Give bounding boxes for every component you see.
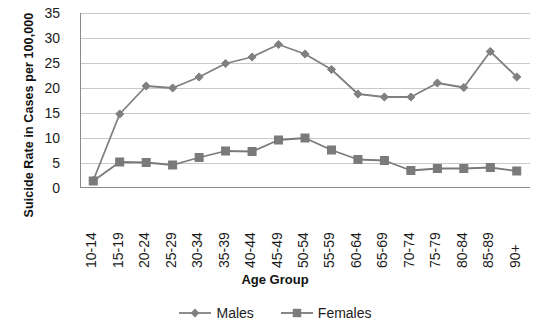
x-tick-label: 85-89 — [480, 198, 496, 268]
x-tick-label: 45-49 — [269, 198, 285, 268]
diamond-marker — [380, 93, 388, 101]
y-tick-label: 30 — [30, 31, 60, 45]
x-tick-label: 30-34 — [189, 198, 205, 268]
x-tick-label: 25-29 — [163, 198, 179, 268]
plot-svg — [80, 13, 530, 188]
x-tick-label: 65-69 — [374, 198, 390, 268]
x-tick-label: 55-59 — [321, 198, 337, 268]
x-tick-label: 35-39 — [216, 198, 232, 268]
series-females — [89, 134, 521, 185]
y-tick-label: 5 — [30, 156, 60, 170]
x-tick-label: 60-64 — [348, 198, 364, 268]
y-tick-label: 15 — [30, 106, 60, 120]
diamond-marker — [433, 79, 441, 87]
diamond-marker — [274, 40, 282, 48]
y-tick-label: 10 — [30, 131, 60, 145]
x-tick-label: 15-19 — [110, 198, 126, 268]
legend-label: Males — [214, 305, 253, 321]
legend-item-males[interactable]: Males — [178, 305, 253, 321]
square-marker — [195, 154, 203, 162]
legend-item-females[interactable]: Females — [280, 305, 372, 321]
x-tick-label: 75-79 — [427, 198, 443, 268]
diamond-marker — [221, 59, 229, 67]
square-marker — [407, 167, 415, 175]
square-marker — [89, 177, 97, 185]
plot-area — [80, 13, 530, 188]
y-tick-label: 20 — [30, 81, 60, 95]
diamond-marker — [178, 306, 212, 320]
diamond-marker — [248, 53, 256, 61]
y-axis-tick-labels: 05101520253035 — [28, 0, 60, 200]
square-marker — [169, 161, 177, 169]
square-marker — [222, 147, 230, 155]
x-tick-label: 20-24 — [136, 198, 152, 268]
x-tick-label: 50-54 — [295, 198, 311, 268]
x-tick-label: 70-74 — [401, 198, 417, 268]
square-marker — [280, 306, 314, 320]
square-marker — [460, 165, 468, 173]
square-marker — [327, 146, 335, 154]
square-marker — [433, 165, 441, 173]
x-axis-tick-labels: 10-1415-1920-2425-2930-3435-3940-4445-49… — [80, 190, 530, 268]
diamond-marker — [169, 84, 177, 92]
diamond-marker — [407, 93, 415, 101]
square-marker — [380, 157, 388, 165]
suicide-rate-by-age-chart: Suicide Rate in Cases per 100,000 051015… — [0, 0, 550, 331]
series-line — [93, 138, 517, 181]
square-marker — [116, 158, 124, 166]
square-marker — [513, 167, 521, 175]
square-marker — [486, 164, 494, 172]
x-tick-label: 90+ — [507, 198, 523, 268]
square-marker — [248, 148, 256, 156]
x-tick-label: 10-14 — [83, 198, 99, 268]
square-marker — [301, 134, 309, 142]
y-tick-label: 35 — [30, 6, 60, 20]
square-marker — [275, 136, 283, 144]
square-marker — [142, 159, 150, 167]
diamond-marker — [301, 50, 309, 58]
x-axis-title: Age Group — [0, 272, 550, 287]
chart-legend: MalesFemales — [0, 305, 550, 321]
x-tick-label: 80-84 — [454, 198, 470, 268]
diamond-marker — [195, 73, 203, 81]
legend-label: Females — [316, 305, 372, 321]
square-marker — [354, 156, 362, 164]
x-tick-label: 40-44 — [242, 198, 258, 268]
y-tick-label: 25 — [30, 56, 60, 70]
y-tick-label: 0 — [30, 181, 60, 195]
